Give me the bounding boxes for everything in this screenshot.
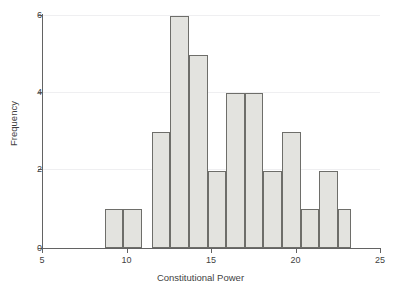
x-tick-label-25: 25 xyxy=(368,255,392,265)
y-tick-label-6: 6 xyxy=(24,11,42,20)
y-tick-label-2: 2 xyxy=(24,165,42,174)
x-tick-mark xyxy=(296,249,297,253)
histogram-bar xyxy=(170,16,189,248)
x-tick-mark xyxy=(127,249,128,253)
y-axis-title: Frequency xyxy=(8,74,19,174)
histogram-bar xyxy=(338,209,352,248)
histogram-bar xyxy=(319,171,338,248)
y-tick-label-0: 0 xyxy=(24,244,42,253)
histogram-bar xyxy=(245,93,264,248)
x-tick-mark xyxy=(380,249,381,253)
histogram-figure: 0 2 4 6 5 10 15 20 25 Frequency Constitu… xyxy=(0,0,401,299)
x-tick-label-20: 20 xyxy=(284,255,308,265)
bars-layer xyxy=(42,10,380,248)
x-tick-mark xyxy=(211,249,212,253)
histogram-bar xyxy=(282,132,301,248)
x-axis-title: Constitutional Power xyxy=(0,272,401,283)
histogram-bar xyxy=(189,55,208,248)
histogram-bar xyxy=(208,171,227,248)
y-tick-label-4: 4 xyxy=(24,88,42,97)
y-axis-line xyxy=(42,14,43,249)
histogram-bar xyxy=(152,132,171,248)
x-tick-label-10: 10 xyxy=(115,255,139,265)
histogram-bar xyxy=(263,171,282,248)
x-tick-label-15: 15 xyxy=(199,255,223,265)
histogram-bar xyxy=(301,209,320,248)
x-tick-mark xyxy=(42,249,43,253)
histogram-bar xyxy=(105,209,124,248)
x-tick-label-5: 5 xyxy=(30,255,54,265)
histogram-bar xyxy=(226,93,245,248)
histogram-bar xyxy=(123,209,142,248)
